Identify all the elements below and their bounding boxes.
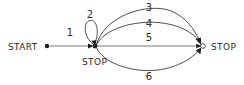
edge-6 — [97, 47, 202, 70]
node-right-marker[interactable] — [201, 44, 206, 49]
node-middle-label: STOP — [82, 57, 107, 67]
edge-5-label: 5 — [146, 32, 152, 43]
edge-1 — [50, 44, 94, 49]
state-transition-diagram: START STOP STOP 1 2 3 4 5 6 — [0, 0, 244, 85]
edge-3-label: 3 — [146, 2, 152, 13]
node-right-label: STOP — [211, 42, 236, 52]
node-middle-marker[interactable] — [93, 44, 98, 49]
edge-2-label: 2 — [87, 9, 93, 20]
edge-2 — [85, 20, 97, 45]
edge-5 — [97, 44, 202, 49]
edge-6-label: 6 — [146, 71, 152, 82]
node-start-label: START — [8, 42, 38, 52]
edge-4-label: 4 — [146, 18, 152, 29]
edge-1-label: 1 — [67, 27, 73, 38]
node-start-marker[interactable] — [45, 44, 49, 48]
edge-6-path — [97, 48, 200, 71]
diagram-canvas: START STOP STOP 1 2 3 4 5 6 — [0, 0, 244, 85]
